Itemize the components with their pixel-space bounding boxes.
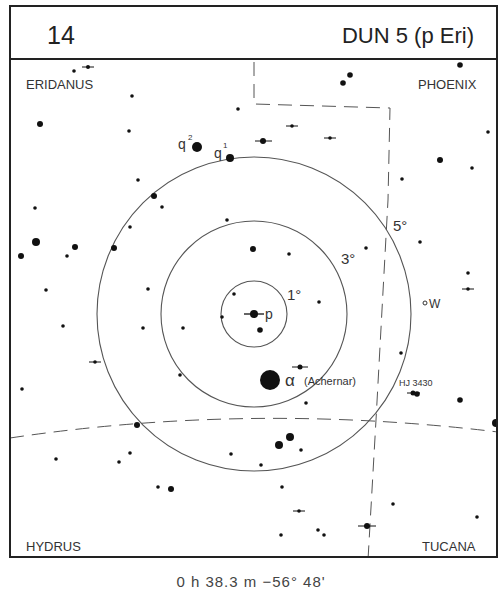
label-hydrus: HYDRUS: [26, 539, 81, 554]
label-3deg: 3°: [341, 250, 355, 267]
label-q1-sup: 1: [223, 141, 228, 150]
stars: [18, 62, 500, 537]
variable-star-w: [423, 301, 427, 305]
label-q2-sup: 2: [188, 133, 193, 142]
label-5deg: 5°: [393, 217, 407, 234]
label-tucana: TUCANA: [422, 539, 476, 554]
coordinates-caption: 0 h 38.3 m −56° 48': [0, 573, 502, 590]
label-target-p: p: [265, 306, 273, 322]
label-q2: q: [178, 136, 186, 152]
label-phoenix: PHOENIX: [418, 77, 477, 92]
label-hj3430: HJ 3430: [399, 378, 433, 388]
label-1deg: 1°: [287, 286, 301, 303]
label-alpha: α: [285, 371, 295, 390]
label-eridanus: ERIDANUS: [26, 77, 94, 92]
label-w: W: [429, 297, 441, 311]
label-q1: q: [214, 145, 222, 161]
label-achernar: (Achernar): [304, 375, 356, 387]
